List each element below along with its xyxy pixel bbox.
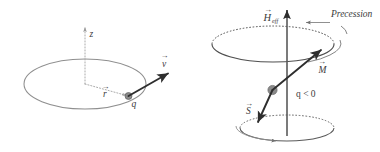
charge-sign-label: q < 0 xyxy=(296,89,316,99)
velocity-vector-label: → v xyxy=(161,51,169,69)
magnetization-vector-label: → M xyxy=(318,57,328,75)
velocity-vector-arrow xyxy=(129,74,169,97)
top-precession-circle-front xyxy=(212,44,334,62)
bottom-sweep-arc xyxy=(236,126,268,140)
field-vector-symbol: H xyxy=(263,12,273,23)
right-panel: Precession → H eff q < 0 → M xyxy=(212,5,373,142)
field-vector-subscript: eff xyxy=(272,17,279,24)
z-axis-label: z xyxy=(89,29,94,39)
precession-label: Precession xyxy=(330,9,373,19)
figure-canvas: z → r q → v xyxy=(0,0,380,152)
radius-vector-label: → r xyxy=(102,82,110,100)
magnetization-vector-arrow xyxy=(273,50,322,90)
precession-sweep-arc-upper xyxy=(341,26,347,34)
left-panel: z → r q → v xyxy=(24,28,169,110)
spin-vector-label: → S xyxy=(245,99,253,117)
magnetization-vector-symbol: M xyxy=(318,65,328,75)
radius-vector-symbol: r xyxy=(103,89,107,99)
top-precession-circle-back xyxy=(212,26,334,44)
spin-vector-symbol: S xyxy=(246,106,251,116)
spin-vector-arrow xyxy=(258,90,273,122)
velocity-vector-symbol: v xyxy=(162,59,167,69)
charge-label: q xyxy=(132,99,137,109)
field-vector-label: → H eff xyxy=(263,5,280,25)
physics-figure: z → r q → v xyxy=(0,0,380,152)
